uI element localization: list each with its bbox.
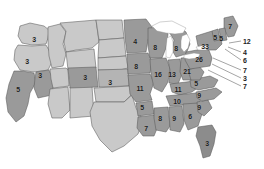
state-shape-wa[interactable]: [18, 23, 49, 45]
state-shape-ne[interactable]: [98, 56, 128, 70]
state-shape-ok[interactable]: [94, 86, 132, 102]
state-shape-co[interactable]: [68, 67, 98, 88]
state-shape-ks[interactable]: [98, 69, 129, 87]
state-shape-fl[interactable]: [196, 125, 216, 158]
state-shape-ms[interactable]: [154, 107, 170, 132]
us-electoral-map: 3353334811578168132111108963995263375512…: [0, 0, 264, 169]
states-group: [6, 16, 238, 158]
state-shape-wy[interactable]: [66, 49, 96, 70]
state-shape-id[interactable]: [48, 24, 66, 68]
state-shape-az[interactable]: [48, 87, 70, 118]
leader-line-ma: [229, 41, 241, 43]
state-shape-ca[interactable]: [6, 71, 36, 122]
lake-michigan-shape: [166, 36, 173, 58]
state-shape-ia[interactable]: [127, 53, 152, 74]
leader-line-ri: [228, 47, 241, 52]
state-shape-or[interactable]: [14, 45, 52, 72]
leader-line-ct: [225, 49, 241, 60]
lake-huron-shape: [181, 34, 190, 52]
state-shape-ar[interactable]: [136, 101, 154, 116]
state-shape-mt[interactable]: [60, 20, 99, 52]
state-shape-sd[interactable]: [98, 38, 126, 58]
state-shape-tx[interactable]: [90, 95, 143, 152]
state-shape-al[interactable]: [169, 106, 184, 132]
state-shape-nc[interactable]: [196, 88, 222, 101]
state-shape-ut[interactable]: [50, 68, 69, 88]
state-shape-nd[interactable]: [96, 20, 124, 40]
leader-line-nj: [213, 58, 241, 70]
leader-line-de: [212, 64, 241, 78]
map-svg: [0, 0, 264, 169]
state-shape-il[interactable]: [150, 58, 170, 92]
